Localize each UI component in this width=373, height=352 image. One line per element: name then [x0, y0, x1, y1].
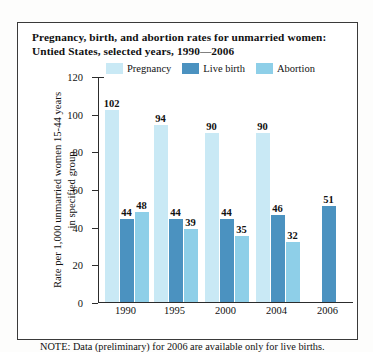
bar-pregnancy: 90 — [256, 133, 270, 303]
y-axis-tick-label: 20 — [73, 260, 84, 271]
bar-group: 51 — [303, 77, 354, 302]
y-axis-tick: 80 — [92, 152, 98, 153]
y-axis-tick: 0 — [92, 303, 98, 304]
y-axis-tick-label: 0 — [78, 298, 83, 309]
legend-label-live-birth: Live birth — [203, 63, 245, 74]
bar-value-label: 44 — [121, 207, 132, 218]
bar-pregnancy: 94 — [154, 125, 168, 302]
bar-value-label: 90 — [257, 121, 268, 132]
legend-item-abortion: Abortion — [256, 63, 315, 74]
plot-area: 020406080100120 102444894443990443590463… — [98, 77, 353, 303]
legend-swatch-pregnancy — [106, 63, 123, 74]
bar-pregnancy: 102 — [105, 110, 119, 302]
y-axis-tick: 100 — [92, 115, 98, 116]
x-axis-label-2004: 2004 — [266, 305, 287, 316]
x-axis-label-1990: 1990 — [115, 305, 136, 316]
bar-group: 904632 — [252, 77, 303, 302]
bar-value-label: 44 — [170, 207, 181, 218]
x-axis-label-1995: 1995 — [164, 305, 185, 316]
bar-abortion: 39 — [184, 229, 198, 302]
figure-container: Pregnancy, birth, and abortion rates for… — [17, 22, 358, 340]
bar-value-label: 51 — [323, 194, 334, 205]
y-axis-tick-label: 60 — [73, 185, 84, 196]
figure-note: NOTE: Data (preliminary) for 2006 are av… — [40, 341, 325, 352]
bar-group: 904435 — [201, 77, 252, 302]
y-axis-tick-label: 120 — [67, 72, 83, 83]
bar-live-birth: 46 — [271, 215, 285, 302]
legend-label-abortion: Abortion — [277, 63, 315, 74]
x-axis-label-2000: 2000 — [215, 305, 236, 316]
chart-legend: Pregnancy Live birth Abortion — [106, 63, 322, 74]
bar-abortion: 35 — [235, 236, 249, 302]
y-axis-tick: 60 — [92, 190, 98, 191]
y-axis-tick-label: 100 — [67, 109, 83, 120]
legend-item-pregnancy: Pregnancy — [106, 63, 171, 74]
bar-pregnancy: 90 — [205, 133, 219, 303]
bar-live-birth: 44 — [220, 219, 234, 302]
bar-value-label: 102 — [104, 98, 120, 109]
bar-group: 944439 — [150, 77, 201, 302]
bar-value-label: 39 — [185, 217, 196, 228]
bar-group: 1024448 — [99, 77, 150, 302]
bar-abortion: 48 — [135, 212, 149, 302]
bar-value-label: 32 — [287, 230, 298, 241]
bar-live-birth: 44 — [169, 219, 183, 302]
x-axis-tick-labels: 19901995200020042006 — [98, 305, 353, 321]
bar-value-label: 90 — [206, 121, 217, 132]
bar-value-label: 35 — [236, 224, 247, 235]
bar-live-birth: 44 — [120, 219, 134, 302]
y-axis-tick: 20 — [92, 265, 98, 266]
legend-swatch-live-birth — [182, 63, 199, 74]
bar-value-label: 46 — [272, 203, 283, 214]
legend-swatch-abortion — [256, 63, 273, 74]
figure-title-line-2: Untied States, selected years, 1990—2006 — [32, 44, 348, 58]
bar-value-label: 48 — [136, 200, 147, 211]
bar-live-birth: 51 — [322, 206, 336, 302]
bar-value-label: 44 — [221, 207, 232, 218]
y-axis-title-line-1: Rate per 1,000 unmarried women 15-44 yea… — [51, 92, 63, 288]
figure-title: Pregnancy, birth, and abortion rates for… — [32, 30, 348, 58]
y-axis-tick: 40 — [92, 228, 98, 229]
x-axis-label-2006: 2006 — [317, 305, 338, 316]
y-axis-tick: 120 — [92, 77, 98, 78]
legend-label-pregnancy: Pregnancy — [127, 63, 171, 74]
figure-title-line-1: Pregnancy, birth, and abortion rates for… — [32, 30, 348, 44]
bar-abortion: 32 — [286, 242, 300, 302]
y-axis-tick-label: 40 — [73, 222, 84, 233]
x-axis-line — [98, 302, 353, 303]
legend-item-live-birth: Live birth — [182, 63, 245, 74]
bar-series-group: 102444894443990443590463251 — [99, 77, 353, 302]
bar-value-label: 94 — [155, 113, 166, 124]
y-axis-tick-label: 80 — [73, 147, 84, 158]
